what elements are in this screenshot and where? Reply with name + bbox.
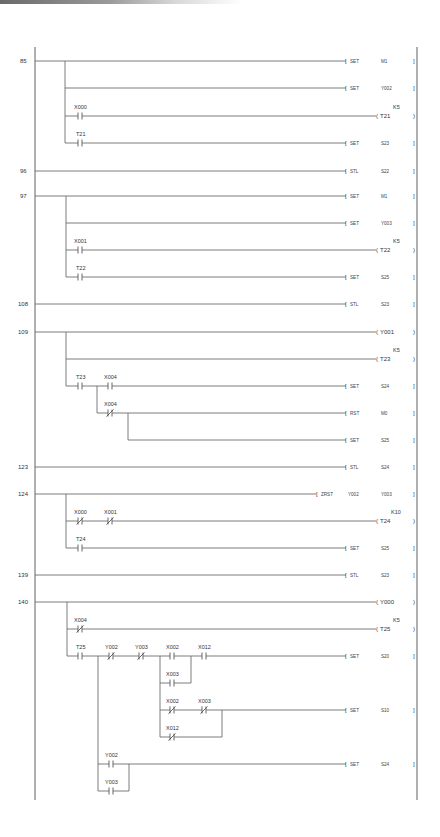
instr-set-s25[interactable]: [ SET S25 ]: [345, 437, 415, 443]
svg-text:K5: K5: [393, 347, 400, 353]
contact-t22[interactable]: [76, 274, 84, 281]
svg-text:[: [: [345, 85, 347, 91]
svg-text:S24: S24: [381, 384, 390, 389]
contact-x003[interactable]: [168, 680, 176, 687]
coil-t21[interactable]: K5 ( T21 ): [376, 104, 415, 119]
contact-t23[interactable]: [76, 383, 84, 390]
contact-label: T24: [76, 536, 85, 542]
svg-text:ZRST: ZRST: [321, 492, 333, 497]
svg-text:SET: SET: [350, 546, 359, 551]
svg-text:Y003: Y003: [381, 221, 392, 226]
instr-set-s24[interactable]: [ SET S24 ]: [345, 761, 415, 767]
svg-text:S24: S24: [381, 465, 390, 470]
coil-t25[interactable]: K5 ( T25 ): [376, 617, 415, 632]
contact-label: T25: [76, 644, 85, 650]
svg-text:]: ]: [413, 437, 415, 443]
svg-text:SET: SET: [350, 384, 359, 389]
contact-x002[interactable]: [168, 653, 176, 660]
contact-x002-nc[interactable]: [168, 707, 176, 714]
svg-text:[: [: [345, 464, 347, 470]
svg-text:[: [: [345, 168, 347, 174]
svg-text:M1: M1: [381, 59, 388, 64]
rung-85: 85 X000 T21 [ SET M1 ] [ SET Y002 ] K5 (…: [20, 58, 415, 147]
svg-text:): ): [413, 518, 415, 524]
svg-text:]: ]: [413, 301, 415, 307]
coil-t24[interactable]: K10 ( T24 ): [376, 509, 415, 524]
contact-x012[interactable]: [200, 653, 208, 660]
svg-text:S22: S22: [381, 169, 390, 174]
svg-text:S24: S24: [381, 762, 390, 767]
contact-x004[interactable]: [106, 383, 114, 390]
contact-x001[interactable]: [76, 247, 84, 254]
instr-set-y003[interactable]: [ SET Y003 ]: [345, 220, 415, 226]
rung-124: 124 X000 X001 T24 [ ZRST Y002 Y003 ] K10…: [18, 491, 415, 552]
contact-x000[interactable]: [76, 113, 84, 120]
coil-y001[interactable]: ( Y001 ): [376, 329, 415, 335]
instr-zrst-y002-y003[interactable]: [ ZRST Y002 Y003 ]: [316, 491, 415, 497]
svg-text:]: ]: [413, 140, 415, 146]
svg-text:SET: SET: [350, 762, 359, 767]
contact-label: X001: [104, 509, 117, 515]
contact-x000-nc[interactable]: [76, 518, 84, 525]
svg-text:T21: T21: [380, 113, 391, 119]
svg-text:): ): [413, 626, 415, 632]
svg-text:(: (: [376, 599, 378, 605]
instr-stl-s23[interactable]: [ STL S23 ]: [345, 301, 415, 307]
step-number: 124: [18, 491, 29, 497]
svg-text:SET: SET: [350, 59, 359, 64]
instr-set-m1[interactable]: [ SET M1 ]: [345, 58, 415, 64]
instr-set-s23[interactable]: [ SET S23 ]: [345, 140, 415, 146]
svg-text:K5: K5: [393, 617, 400, 623]
contact-x004-nc[interactable]: [76, 626, 84, 633]
svg-text:]: ]: [413, 383, 415, 389]
coil-t22[interactable]: K5 ( T22 ): [376, 238, 415, 253]
svg-text:]: ]: [413, 410, 415, 416]
coil-y000[interactable]: ( Y000 ): [376, 599, 415, 605]
contact-t25[interactable]: [76, 653, 84, 660]
instr-stl-s23[interactable]: [ STL S23 ]: [345, 572, 415, 578]
svg-text:[: [: [345, 301, 347, 307]
svg-text:Y002: Y002: [348, 492, 359, 497]
svg-text:M0: M0: [381, 411, 388, 416]
svg-text:S23: S23: [381, 302, 390, 307]
contact-t24[interactable]: [76, 545, 84, 552]
instr-rst-m0[interactable]: [ RST M0 ]: [345, 410, 415, 416]
svg-text:[: [: [345, 383, 347, 389]
contact-x012-nc[interactable]: [168, 734, 176, 741]
instr-set-s25[interactable]: [ SET S25 ]: [345, 545, 415, 551]
contact-x004-nc[interactable]: [106, 410, 114, 417]
coil-t23[interactable]: K5 ( T23 ): [376, 347, 415, 362]
instr-set-s20[interactable]: [ SET S20 ]: [345, 653, 415, 659]
contact-t21[interactable]: [76, 140, 84, 147]
rung-140: 140 X004 T25 Y002 Y003 X002 X012 X003: [18, 599, 415, 795]
contact-label: X003: [198, 698, 211, 704]
svg-text:): ): [413, 599, 415, 605]
instr-set-s10[interactable]: [ SET S10 ]: [345, 707, 415, 713]
instr-stl-s22[interactable]: [ STL S22 ]: [345, 168, 415, 174]
instr-set-m1[interactable]: [ SET M1 ]: [345, 193, 415, 199]
svg-text:): ): [413, 247, 415, 253]
svg-text:]: ]: [413, 58, 415, 64]
contact-y002[interactable]: [107, 761, 115, 768]
instr-set-y002[interactable]: [ SET Y002 ]: [345, 85, 415, 91]
svg-text:]: ]: [413, 572, 415, 578]
svg-text:): ): [413, 113, 415, 119]
svg-text:SET: SET: [350, 86, 359, 91]
instr-set-s24[interactable]: [ SET S24 ]: [345, 383, 415, 389]
contact-y003[interactable]: [107, 788, 115, 795]
svg-text:STL: STL: [350, 465, 359, 470]
svg-text:(: (: [376, 247, 378, 253]
contact-y003-nc[interactable]: [137, 653, 145, 660]
svg-text:[: [: [345, 761, 347, 767]
rung-97: 97 X001 T22 [ SET M1 ] [ SET Y003 ] K5 (…: [20, 193, 415, 281]
svg-text:SET: SET: [350, 654, 359, 659]
contact-x003-nc[interactable]: [200, 707, 208, 714]
contact-x001-nc[interactable]: [106, 518, 114, 525]
instr-set-s25[interactable]: [ SET S25 ]: [345, 274, 415, 280]
svg-text:]: ]: [413, 85, 415, 91]
rung-96: 96 [ STL S22 ]: [20, 168, 415, 174]
contact-label: Y002: [105, 644, 118, 650]
instr-stl-s24[interactable]: [ STL S24 ]: [345, 464, 415, 470]
contact-label: X004: [104, 374, 117, 380]
contact-y002-nc[interactable]: [107, 653, 115, 660]
